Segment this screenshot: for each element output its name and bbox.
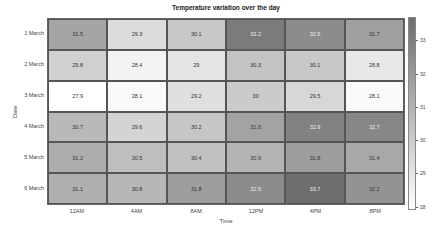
heatmap-cell: 30.2 bbox=[167, 112, 226, 143]
heatmap-cell: 32.5 bbox=[285, 19, 344, 50]
x-tick-label: 4PM bbox=[310, 208, 321, 214]
heatmap-cell: 30.1 bbox=[167, 19, 226, 50]
x-tick-label: 12PM bbox=[249, 208, 263, 214]
heatmap-cell: 28.4 bbox=[107, 50, 166, 81]
x-axis-label: Time bbox=[219, 218, 232, 224]
y-tick-label: 3 March bbox=[24, 92, 44, 98]
heatmap-cell: 33.2 bbox=[226, 19, 285, 50]
heatmap-cell: 30.1 bbox=[285, 50, 344, 81]
y-tick-label: 5 March bbox=[24, 154, 44, 160]
x-tick-label: 8AM bbox=[191, 208, 202, 214]
colorbar-tick-label: 32 bbox=[420, 71, 426, 77]
y-axis-label: Date bbox=[12, 106, 18, 119]
heatmap-cell: 32.2 bbox=[345, 173, 404, 204]
chart-title: Temperature variation over the day bbox=[47, 4, 405, 11]
x-tick-label: 8PM bbox=[370, 208, 381, 214]
x-tick-label: 4AM bbox=[131, 208, 142, 214]
heatmap-cell: 30.8 bbox=[107, 173, 166, 204]
y-tick-label: 4 March bbox=[24, 123, 44, 129]
heatmap-cell: 32.7 bbox=[345, 112, 404, 143]
colorbar-tick-label: 29 bbox=[420, 170, 426, 176]
heatmap-cell: 30.4 bbox=[167, 142, 226, 173]
heatmap-cell: 31.4 bbox=[345, 142, 404, 173]
heatmap-cell: 31.6 bbox=[226, 112, 285, 143]
colorbar-tick-label: 28 bbox=[420, 204, 426, 210]
heatmap-cell: 31.5 bbox=[48, 19, 107, 50]
heatmap-cell: 31.1 bbox=[48, 173, 107, 204]
heatmap-cell: 29.2 bbox=[167, 81, 226, 112]
colorbar-tick-label: 33 bbox=[420, 37, 426, 43]
colorbar-tick-label: 31 bbox=[420, 104, 426, 110]
heatmap-cell: 28.8 bbox=[345, 50, 404, 81]
heatmap-cell: 32.5 bbox=[226, 173, 285, 204]
heatmap-cell: 31.8 bbox=[285, 142, 344, 173]
y-tick-label: 6 March bbox=[24, 185, 44, 191]
heatmap-cell: 29.5 bbox=[285, 81, 344, 112]
heatmap-cell: 33.7 bbox=[285, 173, 344, 204]
heatmap-cell: 30.5 bbox=[107, 142, 166, 173]
heatmap-cell: 30 bbox=[226, 81, 285, 112]
heatmap-cell: 29.6 bbox=[107, 112, 166, 143]
heatmap-grid: 31.529.330.133.232.531.729.828.42930.330… bbox=[47, 18, 405, 205]
heatmap-cell: 29.3 bbox=[107, 19, 166, 50]
heatmap-cell: 32.9 bbox=[285, 112, 344, 143]
heatmap-cell: 30.7 bbox=[48, 112, 107, 143]
heatmap-cell: 29.8 bbox=[48, 50, 107, 81]
colorbar-tick-label: 30 bbox=[420, 137, 426, 143]
heatmap-cell: 30.9 bbox=[226, 142, 285, 173]
y-tick-label: 1 March bbox=[24, 30, 44, 36]
heatmap-cell: 31.7 bbox=[345, 19, 404, 50]
heatmap-cell: 29 bbox=[167, 50, 226, 81]
x-tick-label: 12AM bbox=[70, 208, 84, 214]
heatmap-cell: 28.1 bbox=[345, 81, 404, 112]
heatmap-cell: 27.9 bbox=[48, 81, 107, 112]
heatmap-cell: 31.2 bbox=[48, 142, 107, 173]
colorbar bbox=[408, 17, 416, 210]
heatmap-cell: 30.3 bbox=[226, 50, 285, 81]
y-tick-label: 2 March bbox=[24, 61, 44, 67]
heatmap-cell: 31.8 bbox=[167, 173, 226, 204]
heatmap-cell: 28.1 bbox=[107, 81, 166, 112]
